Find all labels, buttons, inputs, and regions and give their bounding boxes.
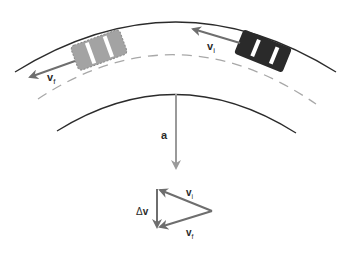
label-v-final: vf	[47, 71, 56, 86]
triangle-v-final-arrow	[160, 211, 212, 227]
label-v-initial: vi	[207, 40, 215, 55]
vector-triangle: vi vf Δv	[136, 187, 212, 240]
v-initial-arrow	[193, 29, 240, 43]
label-delta-v: Δv	[136, 206, 149, 217]
label-acceleration: a	[161, 129, 168, 141]
centripetal-acceleration-diagram: vi vf a vi vf Δv	[0, 0, 352, 253]
label-triangle-v-final: vf	[186, 227, 194, 240]
car-final	[70, 29, 128, 71]
car-initial	[234, 29, 292, 73]
label-triangle-v-initial: vi	[186, 187, 194, 200]
